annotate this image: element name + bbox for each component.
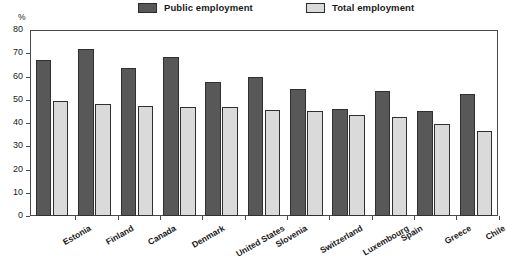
bar-chart: Public employment Total employment % 807… — [0, 0, 506, 272]
bar-total-employment — [392, 117, 408, 216]
bar-group — [78, 31, 111, 216]
x-axis-tick-mark — [456, 216, 457, 220]
bar-total-employment — [138, 106, 154, 216]
y-axis-tick-mark — [26, 123, 30, 124]
x-axis-tick-mark — [245, 216, 246, 220]
y-axis-unit-label: % — [18, 12, 26, 22]
legend-item-public-employment: Public employment — [138, 2, 253, 13]
bar-group — [290, 31, 323, 216]
bar-public-employment — [205, 82, 221, 216]
x-axis-category-label: Finland — [104, 223, 135, 247]
x-axis-tick-mark — [160, 216, 161, 220]
bar-public-employment — [417, 111, 433, 216]
x-axis-tick-mark — [414, 216, 415, 220]
legend-swatch-icon-public — [138, 3, 157, 13]
x-axis-tick-mark — [499, 216, 500, 220]
chart-legend: Public employment Total employment — [0, 0, 506, 22]
bar-group — [248, 31, 281, 216]
bar-total-employment — [477, 131, 493, 216]
x-axis: EstoniaFinlandCanadaDenmarkUnited States… — [0, 216, 506, 272]
x-axis-category-label: Estonia — [62, 223, 94, 247]
y-axis-tick-mark — [26, 170, 30, 171]
bar-public-employment — [163, 57, 179, 216]
bar-total-employment — [222, 107, 238, 216]
bar-public-employment — [460, 94, 476, 216]
x-axis-tick-mark — [329, 216, 330, 220]
bar-group — [460, 31, 493, 216]
y-axis-tick-mark — [26, 193, 30, 194]
legend-label-public: Public employment — [164, 2, 253, 13]
bar-group — [36, 31, 69, 216]
bar-public-employment — [375, 91, 391, 216]
x-axis-category-label: Switzerland — [318, 223, 364, 255]
x-axis-tick-mark — [202, 216, 203, 220]
bar-public-employment — [290, 89, 306, 216]
bar-total-employment — [180, 107, 196, 216]
y-axis-tick-label: 70 — [13, 47, 23, 57]
bar-group — [332, 31, 365, 216]
x-axis-tick-mark — [75, 216, 76, 220]
bar-group — [417, 31, 450, 216]
x-axis-category-label: Greece — [443, 223, 473, 246]
bar-public-employment — [36, 60, 52, 216]
y-axis-tick-mark — [26, 53, 30, 54]
legend-item-total-employment: Total employment — [306, 2, 414, 13]
x-axis-category-label: Denmark — [189, 223, 226, 250]
legend-swatch-icon-total — [306, 3, 325, 13]
x-axis-tick-mark — [118, 216, 119, 220]
x-axis-category-label: Chile — [484, 223, 506, 242]
bar-total-employment — [307, 111, 323, 216]
bars-layer — [31, 31, 497, 216]
bar-public-employment — [248, 77, 264, 216]
x-axis-tick-mark — [287, 216, 288, 220]
y-axis-tick-label: 30 — [13, 140, 23, 150]
bar-total-employment — [265, 110, 281, 216]
y-axis-tick-mark — [26, 146, 30, 147]
x-axis-category-label: Canada — [146, 223, 178, 247]
y-axis-tick-label: 80 — [13, 24, 23, 34]
bar-group — [375, 31, 408, 216]
legend-label-total: Total employment — [332, 2, 414, 13]
y-axis-tick-mark — [26, 100, 30, 101]
bar-public-employment — [332, 109, 348, 216]
bar-public-employment — [121, 68, 137, 216]
bar-total-employment — [349, 115, 365, 216]
y-axis-tick-label: 50 — [13, 94, 23, 104]
bar-total-employment — [95, 104, 111, 216]
bar-group — [205, 31, 238, 216]
bar-public-employment — [78, 49, 94, 216]
bar-group — [163, 31, 196, 216]
bar-group — [121, 31, 154, 216]
y-axis-tick-label: 10 — [13, 187, 23, 197]
bar-total-employment — [53, 101, 69, 216]
bar-total-employment — [434, 124, 450, 216]
x-axis-tick-mark — [372, 216, 373, 220]
y-axis-tick-mark — [26, 77, 30, 78]
y-axis-tick-label: 40 — [13, 117, 23, 127]
y-axis-tick-label: 20 — [13, 164, 23, 174]
y-axis-tick-label: 60 — [13, 71, 23, 81]
